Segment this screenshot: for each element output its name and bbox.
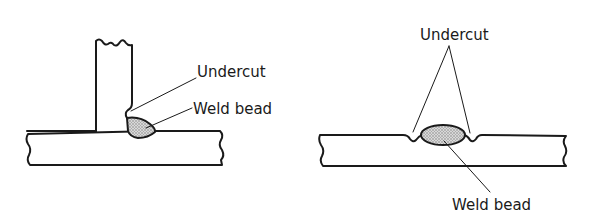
base-plate: [27, 131, 224, 165]
right-panel-butt-weld: [319, 46, 566, 192]
undercut-leader-right: [449, 46, 470, 133]
weld-bead-leader-line: [146, 108, 192, 128]
fillet-weld-bead: [127, 118, 155, 138]
right-weld-bead-label: Weld bead: [452, 196, 531, 214]
butt-weld-bead: [421, 125, 465, 145]
weld-undercut-diagram: Undercut Weld bead Undercut Weld bead: [0, 0, 595, 221]
left-undercut-label: Undercut: [197, 63, 266, 81]
undercut-leader-left: [413, 46, 449, 132]
right-undercut-label: Undercut: [420, 26, 489, 44]
left-weld-bead-label: Weld bead: [193, 100, 272, 118]
undercut-leader-line: [131, 78, 196, 111]
